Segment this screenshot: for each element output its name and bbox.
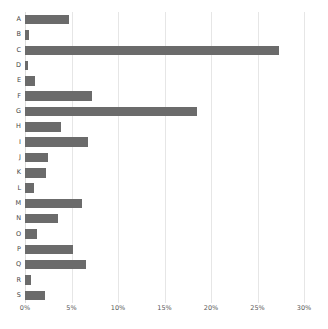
bar-row — [25, 153, 304, 162]
bar-j[interactable] — [25, 153, 48, 162]
bar-r[interactable] — [25, 275, 31, 284]
bar-g[interactable] — [25, 107, 197, 116]
y-tick-label-o: O — [0, 231, 21, 238]
bar-row — [25, 199, 304, 208]
bar-row — [25, 91, 304, 100]
bar-h[interactable] — [25, 122, 61, 131]
y-axis-tick-labels: ABCDEFGHIJKLMNOPQRS — [0, 12, 21, 303]
bar-i[interactable] — [25, 137, 88, 146]
y-tick-label-p: P — [0, 246, 21, 253]
y-tick-label-j: J — [0, 154, 21, 161]
bar-a[interactable] — [25, 15, 69, 24]
bar-o[interactable] — [25, 229, 37, 238]
y-tick-label-i: I — [0, 139, 21, 146]
bar-row — [25, 122, 304, 131]
bar-row — [25, 61, 304, 70]
x-tick-label-10pct: 10% — [111, 305, 125, 312]
y-tick-label-l: L — [0, 185, 21, 192]
y-tick-label-q: Q — [0, 261, 21, 268]
bar-row — [25, 168, 304, 177]
y-tick-label-g: G — [0, 108, 21, 115]
bar-row — [25, 291, 304, 300]
bar-row — [25, 229, 304, 238]
bar-row — [25, 214, 304, 223]
x-tick-label-0pct: 0% — [20, 305, 30, 312]
plot-area — [25, 12, 304, 303]
y-tick-label-r: R — [0, 277, 21, 284]
bar-row — [25, 183, 304, 192]
y-tick-label-a: A — [0, 16, 21, 23]
bar-l[interactable] — [25, 183, 34, 192]
bar-d[interactable] — [25, 61, 28, 70]
bar-k[interactable] — [25, 168, 46, 177]
bar-f[interactable] — [25, 91, 92, 100]
bar-row — [25, 260, 304, 269]
y-tick-label-s: S — [0, 292, 21, 299]
bar-m[interactable] — [25, 199, 82, 208]
gridline-30pct — [304, 12, 305, 303]
y-tick-label-d: D — [0, 62, 21, 69]
bar-b[interactable] — [25, 30, 29, 39]
bar-chart: ABCDEFGHIJKLMNOPQRS 0%5%10%15%20%25%30% — [0, 0, 328, 329]
bar-row — [25, 275, 304, 284]
y-tick-label-n: N — [0, 215, 21, 222]
bar-row — [25, 245, 304, 254]
y-tick-label-f: F — [0, 93, 21, 100]
bar-row — [25, 137, 304, 146]
bar-row — [25, 30, 304, 39]
bar-row — [25, 107, 304, 116]
y-tick-label-h: H — [0, 123, 21, 130]
x-tick-label-20pct: 20% — [204, 305, 218, 312]
x-tick-label-25pct: 25% — [250, 305, 264, 312]
bar-row — [25, 76, 304, 85]
bar-p[interactable] — [25, 245, 73, 254]
x-tick-label-5pct: 5% — [66, 305, 76, 312]
bar-row — [25, 15, 304, 24]
bar-s[interactable] — [25, 291, 45, 300]
y-tick-label-k: K — [0, 169, 21, 176]
x-tick-label-30pct: 30% — [297, 305, 311, 312]
bar-row — [25, 46, 304, 55]
bar-e[interactable] — [25, 76, 35, 85]
bar-q[interactable] — [25, 260, 86, 269]
y-tick-label-e: E — [0, 77, 21, 84]
bar-n[interactable] — [25, 214, 58, 223]
x-tick-label-15pct: 15% — [157, 305, 171, 312]
y-tick-label-b: B — [0, 31, 21, 38]
y-tick-label-m: M — [0, 200, 21, 207]
x-axis-tick-labels: 0%5%10%15%20%25%30% — [0, 305, 328, 317]
bar-c[interactable] — [25, 46, 279, 55]
y-tick-label-c: C — [0, 47, 21, 54]
